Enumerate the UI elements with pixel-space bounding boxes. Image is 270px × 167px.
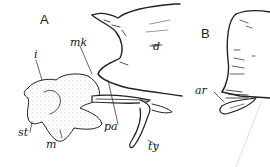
panel-b-drawing [214, 11, 270, 167]
dermal-bone-outline [92, 4, 180, 18]
panel-label-a: A [40, 12, 49, 27]
label-i: i [34, 48, 38, 61]
label-d: d [153, 40, 160, 53]
label-ar: ar [195, 84, 207, 97]
label-mk: mk [70, 36, 87, 49]
label-m: m [46, 138, 56, 151]
label-st: st [18, 126, 28, 139]
tympanic-bone [130, 100, 150, 148]
skull-outline-b [222, 14, 270, 98]
label-ty: ty [148, 140, 159, 153]
cartilage-mass [24, 74, 102, 141]
label-pa: pa [104, 120, 118, 133]
panel-label-b: B [201, 26, 210, 41]
dermal-bone-inner-curve [92, 15, 182, 96]
